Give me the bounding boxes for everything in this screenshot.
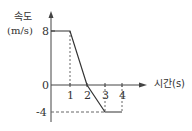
x-axis-label: 시간(s) bbox=[154, 79, 185, 89]
xtick-4: 4 bbox=[119, 90, 126, 101]
y-axis-label-title: 속도 bbox=[14, 12, 32, 22]
ytick-0: 0 bbox=[42, 80, 49, 91]
xtick-3: 3 bbox=[102, 90, 109, 101]
ytick-8: 8 bbox=[42, 26, 49, 37]
y-axis-arrow-icon bbox=[49, 11, 54, 18]
xtick-1: 1 bbox=[67, 90, 74, 101]
y-axis-label-unit: (m/s) bbox=[7, 26, 33, 36]
xtick-2: 2 bbox=[84, 90, 91, 101]
ytick-minus4: -4 bbox=[36, 107, 47, 118]
x-axis-arrow-icon bbox=[139, 83, 147, 88]
